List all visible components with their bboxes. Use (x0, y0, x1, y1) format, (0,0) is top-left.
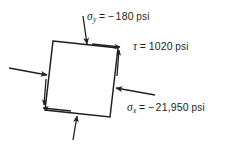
tau-equals: = (137, 40, 148, 52)
tau-label: τ=1020psi (133, 40, 189, 52)
sigma-y-minus: − (108, 10, 116, 22)
sigma-x-right-arrow (116, 88, 155, 95)
tau-unit: psi (173, 41, 189, 52)
tau-value: 1020 (149, 40, 173, 52)
sigma-x-left-arrow (9, 68, 47, 75)
sigma-x-value: 21,950 (156, 101, 189, 113)
sigma-y-unit: psi (134, 11, 150, 22)
sigma-y-value: 180 (116, 10, 134, 22)
sigma-y-bottom-arrow (73, 116, 77, 140)
sigma-x-equals: = (136, 101, 147, 113)
sigma-x-label: σx=−21,950psi (127, 101, 205, 115)
sigma-x-unit: psi (189, 102, 205, 113)
sigma-x-minus: − (148, 101, 156, 113)
stress-element-figure: σy=−180psi τ=1020psi σx=−21,950psi (0, 0, 227, 147)
sigma-y-equals: = (96, 10, 107, 22)
stress-element-square (45, 41, 118, 117)
sigma-y-label: σy=−180psi (87, 10, 150, 24)
